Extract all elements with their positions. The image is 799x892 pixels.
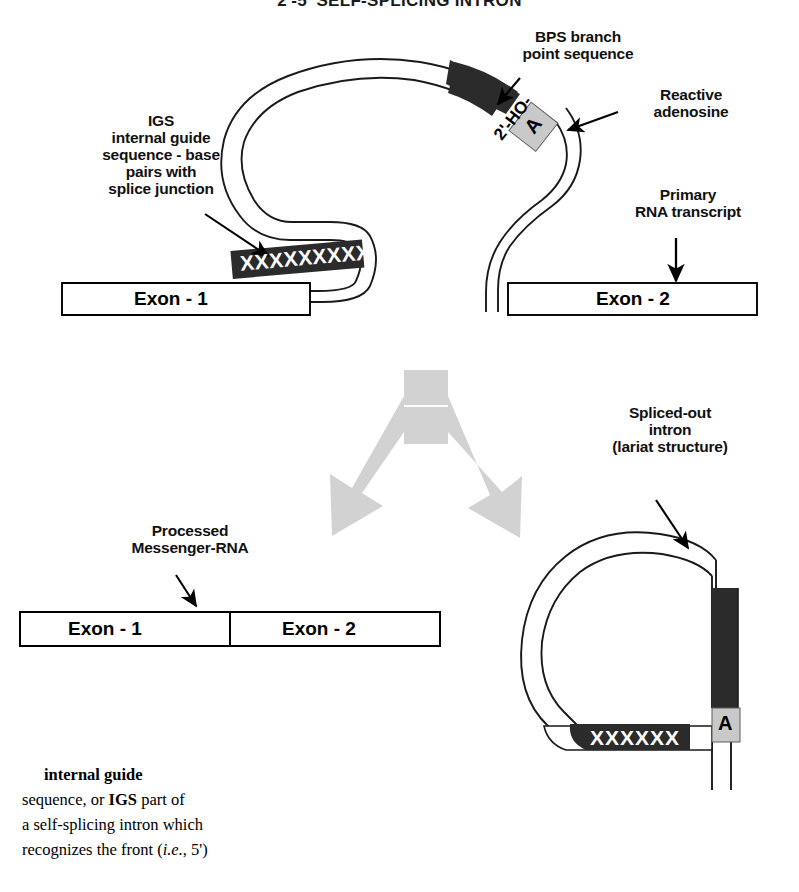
leader-processed-mrna	[176, 575, 196, 606]
label-bps-branch-point-sequence: BPS branch point sequence	[472, 28, 684, 62]
label-spliced-out-intron: Spliced-out intron (lariat structure)	[548, 404, 792, 455]
caption-line4-b: i.e.	[163, 840, 183, 859]
caption-line2-b: , or	[82, 790, 108, 809]
caption-line2-a: sequence	[22, 790, 82, 809]
exon-1-label-mrna: Exon - 1	[68, 618, 142, 640]
lariat-structure	[521, 532, 740, 790]
leader-spliced-out-intron	[656, 500, 688, 548]
label-igs: IGS internal guide sequence - base pairs…	[58, 112, 264, 197]
splicing-fork-arrow	[330, 370, 522, 538]
igs-x-sequence-lariat: XXXXXX	[590, 726, 680, 750]
exon-1-label-primary: Exon - 1	[134, 288, 208, 310]
figure-caption: internal guide sequence, or IGS part of …	[22, 762, 352, 862]
caption-line4-c: , 5')	[183, 840, 208, 859]
caption-lead: internal guide	[44, 765, 143, 784]
adenosine-letter-lariat: A	[718, 712, 732, 735]
caption-line2-c: IGS	[109, 790, 137, 809]
caption-line3: a self-splicing intron which	[22, 815, 203, 834]
label-reactive-adenosine: Reactive adenosine	[596, 86, 786, 120]
exon-2-label-mrna: Exon - 2	[282, 618, 356, 640]
caption-line2-d: part of	[137, 790, 185, 809]
caption-line4-a: recognizes the front (	[22, 840, 163, 859]
exon-2-label-primary: Exon - 2	[596, 288, 670, 310]
figure-canvas: 2'-5' SELF-SPLICING INTRON	[0, 0, 799, 892]
label-processed-messenger-rna: Processed Messenger-RNA	[78, 522, 302, 556]
label-primary-rna-transcript: Primary RNA transcript	[600, 186, 776, 220]
